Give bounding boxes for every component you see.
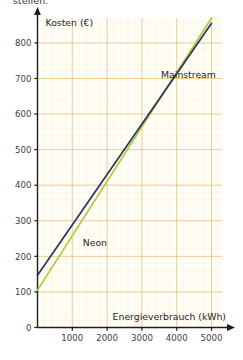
svg-text:400: 400 xyxy=(15,180,31,190)
svg-text:300: 300 xyxy=(15,216,31,226)
svg-text:600: 600 xyxy=(15,109,31,119)
series-label-neon: Neon xyxy=(83,237,107,248)
svg-text:100: 100 xyxy=(15,287,31,297)
svg-text:4000: 4000 xyxy=(166,333,188,343)
chart-svg: 1000200030004000500001002003004005006007… xyxy=(0,0,243,360)
y-axis-title: Kosten (€) xyxy=(46,17,94,28)
series-label-mainstream: Mainstream xyxy=(161,69,216,80)
svg-text:800: 800 xyxy=(15,38,31,48)
chart-figure: stellen. 1000200030004000500001002003004… xyxy=(0,0,243,360)
svg-text:3000: 3000 xyxy=(131,333,153,343)
x-axis-title: Energieverbrauch (kWh) xyxy=(113,311,226,322)
svg-text:2000: 2000 xyxy=(96,333,118,343)
svg-text:0: 0 xyxy=(26,323,31,333)
svg-text:500: 500 xyxy=(15,145,31,155)
svg-text:200: 200 xyxy=(15,252,31,262)
svg-text:1000: 1000 xyxy=(61,333,83,343)
svg-text:700: 700 xyxy=(15,74,31,84)
svg-text:5000: 5000 xyxy=(201,333,223,343)
